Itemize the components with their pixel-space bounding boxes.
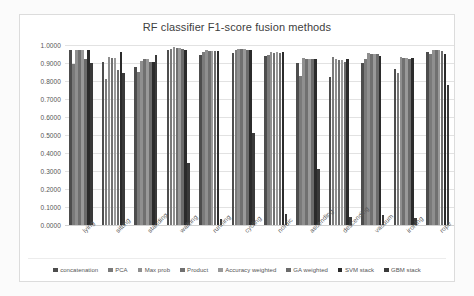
legend-label: Max prob [145, 267, 170, 273]
legend-swatch-icon [286, 268, 291, 273]
bar-group [260, 45, 292, 225]
legend-label: GA weighted [293, 267, 328, 273]
bar-group [65, 45, 97, 225]
bar-groups [65, 45, 454, 225]
y-axis-tick-label: 0.6000 [41, 114, 61, 121]
legend-label: concatenation [60, 267, 98, 273]
x-axis-labels: lyingsittingstandingwalkingrunningcyclin… [65, 227, 454, 269]
bar [217, 51, 220, 225]
bar-group [422, 45, 454, 225]
legend-label: PCA [115, 267, 128, 273]
legend-swatch-icon [180, 268, 185, 273]
legend-swatch-icon [218, 268, 223, 273]
legend-item[interactable]: GA weighted [286, 267, 328, 273]
legend-label: SVM stack [345, 267, 374, 273]
y-axis-tick-label: 1.0000 [41, 42, 61, 49]
bar [346, 59, 349, 225]
legend-label: Product [187, 267, 208, 273]
legend-swatch-icon [53, 268, 58, 273]
bar-group [389, 45, 421, 225]
bar [155, 55, 158, 225]
legend-swatch-icon [138, 268, 143, 273]
y-axis-tick-label: 0.5000 [41, 132, 61, 139]
bar [447, 85, 450, 225]
bar [122, 73, 125, 225]
y-axis-tick-label: 0.9000 [41, 60, 61, 67]
legend-label: Accuracy weighted [225, 267, 276, 273]
legend-item[interactable]: concatenation [53, 267, 98, 273]
chart-container: RF classifier F1-score fusion methods 1.… [19, 14, 455, 282]
bar [379, 56, 382, 225]
legend-item[interactable]: Accuracy weighted [218, 267, 276, 273]
legend-swatch-icon [108, 268, 113, 273]
bar [411, 58, 414, 225]
bar [90, 63, 93, 225]
bar-group [324, 45, 356, 225]
bar-group [130, 45, 162, 225]
y-axis-tick-label: 0.7000 [41, 96, 61, 103]
legend-label: GBM stack [391, 267, 421, 273]
y-axis-tick-label: 0.8000 [41, 78, 61, 85]
bar [252, 133, 255, 225]
bar-group [227, 45, 259, 225]
legend-swatch-icon [384, 268, 389, 273]
bar-group [97, 45, 129, 225]
plot-area [65, 45, 454, 225]
bar-group [292, 45, 324, 225]
chart-legend: concatenationPCAMax probProductAccuracy … [20, 267, 454, 273]
y-axis-tick-label: 0.0000 [41, 222, 61, 229]
bar-group [357, 45, 389, 225]
bar [282, 52, 285, 225]
legend-item[interactable]: Max prob [138, 267, 170, 273]
y-axis: 1.00000.90000.80000.70000.60000.50000.40… [20, 45, 65, 225]
legend-divider [28, 258, 446, 259]
bar-group [195, 45, 227, 225]
legend-item[interactable]: PCA [108, 267, 128, 273]
y-axis-tick-label: 0.2000 [41, 186, 61, 193]
y-axis-tick-label: 0.3000 [41, 168, 61, 175]
y-axis-tick-label: 0.1000 [41, 204, 61, 211]
screenshot-root: RF classifier F1-score fusion methods 1.… [0, 0, 474, 296]
legend-item[interactable]: GBM stack [384, 267, 421, 273]
legend-item[interactable]: SVM stack [338, 267, 374, 273]
y-axis-tick-label: 0.4000 [41, 150, 61, 157]
legend-item[interactable]: Product [180, 267, 208, 273]
legend-swatch-icon [338, 268, 343, 273]
bar-group [162, 45, 194, 225]
chart-title: RF classifier F1-score fusion methods [20, 21, 454, 33]
